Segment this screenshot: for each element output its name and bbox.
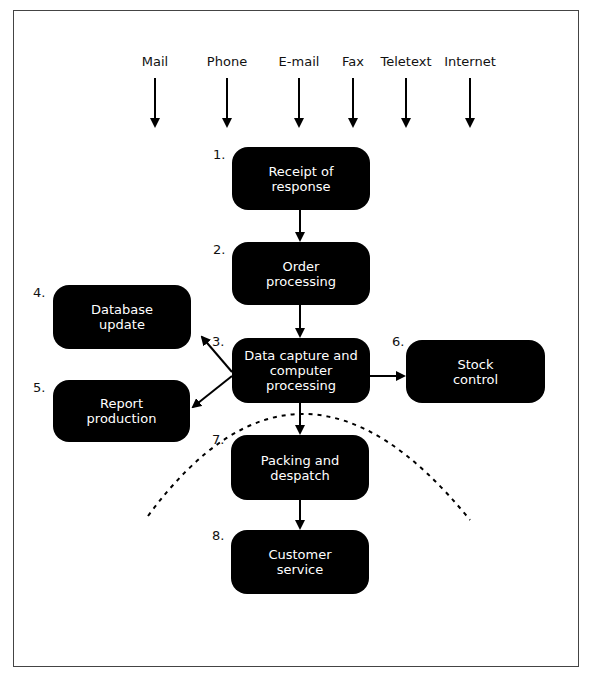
channel-mail: Mail bbox=[142, 54, 168, 69]
step-receipt-of-response: Receipt of response bbox=[232, 147, 370, 210]
step-number-4: 4. bbox=[33, 285, 45, 300]
step-order-processing: Order processing bbox=[232, 242, 370, 305]
step-label: Order processing bbox=[256, 259, 346, 289]
step-label: Packing and despatch bbox=[250, 453, 350, 483]
step-number-2: 2. bbox=[213, 242, 225, 257]
step-number-7: 7. bbox=[212, 432, 224, 447]
step-label: Report production bbox=[82, 396, 162, 426]
channel-internet: Internet bbox=[444, 54, 496, 69]
step-customer-service: Customer service bbox=[231, 530, 369, 594]
channel-phone: Phone bbox=[207, 54, 247, 69]
channel-teletext: Teletext bbox=[381, 54, 432, 69]
step-label: Receipt of response bbox=[256, 164, 346, 194]
channel-email: E-mail bbox=[279, 54, 320, 69]
step-number-1: 1. bbox=[213, 147, 225, 162]
step-label: Customer service bbox=[260, 547, 340, 577]
step-report-production: Report production bbox=[53, 380, 190, 442]
step-number-3: 3. bbox=[212, 334, 224, 349]
step-number-6: 6. bbox=[392, 334, 404, 349]
step-data-capture: Data capture and computer processing bbox=[232, 338, 370, 403]
step-number-8: 8. bbox=[212, 528, 224, 543]
step-label: Data capture and computer processing bbox=[241, 348, 361, 393]
channel-arrows bbox=[155, 78, 470, 126]
step-database-update: Database update bbox=[53, 285, 191, 349]
step-label: Stock control bbox=[446, 357, 506, 387]
step-number-5: 5. bbox=[33, 380, 45, 395]
channel-fax: Fax bbox=[342, 54, 364, 69]
step-label: Database update bbox=[82, 302, 162, 332]
step-stock-control: Stock control bbox=[406, 340, 545, 403]
step-packing-and-despatch: Packing and despatch bbox=[231, 435, 369, 500]
